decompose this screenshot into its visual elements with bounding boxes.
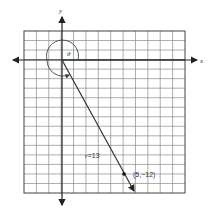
radius-label: r=13: [85, 152, 100, 160]
grid: [24, 31, 185, 193]
grid-border: [24, 31, 185, 193]
x-axis-label: x: [199, 57, 204, 65]
y-axis-label: y: [58, 7, 63, 15]
theta-label: θ: [67, 50, 71, 58]
point-marker: [122, 172, 126, 176]
radius-value: =13: [88, 152, 100, 159]
point-label: (5,−12): [133, 171, 155, 179]
polar-diagram: x y θ (5,−12) r=13: [0, 0, 218, 213]
